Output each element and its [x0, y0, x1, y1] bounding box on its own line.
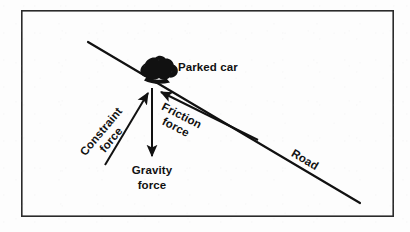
physics-force-diagram: Parked car Constraint force Friction for… — [0, 0, 410, 232]
diagram-canvas: Parked car Constraint force Friction for… — [0, 0, 410, 232]
parked-car-label: Parked car — [178, 61, 238, 73]
parked-car-icon — [140, 56, 177, 84]
road-label: Road — [289, 147, 320, 172]
constraint-force-label: Constraint force — [78, 105, 135, 166]
svg-text:force: force — [138, 179, 167, 191]
svg-text:Road: Road — [289, 147, 320, 172]
gravity-force-label: Gravity force — [132, 164, 173, 191]
svg-text:Gravity: Gravity — [132, 164, 173, 176]
